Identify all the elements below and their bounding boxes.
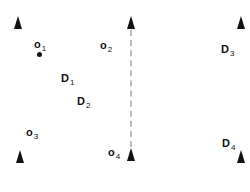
label-base: o xyxy=(34,38,41,50)
triangle-marker-icon xyxy=(237,16,245,29)
label-subscript: 3 xyxy=(230,49,234,58)
triangle-marker-icon xyxy=(14,16,22,29)
label-subscript: 4 xyxy=(231,143,235,152)
label-base: o xyxy=(108,146,115,158)
label-o1: o1 xyxy=(34,39,46,53)
label-subscript: 2 xyxy=(108,45,112,54)
label-base: o xyxy=(100,39,107,51)
label-o3: o3 xyxy=(26,127,38,141)
label-base: D xyxy=(77,95,85,107)
label-d4: D4 xyxy=(222,138,235,152)
label-o2: o2 xyxy=(100,40,112,54)
triangle-marker-icon xyxy=(127,148,135,161)
label-subscript: 3 xyxy=(34,132,38,141)
triangle-marker-icon xyxy=(237,150,245,163)
label-d2: D2 xyxy=(77,96,90,110)
label-o4: o4 xyxy=(108,147,120,161)
label-subscript: 1 xyxy=(42,44,46,53)
triangle-marker-icon xyxy=(127,16,135,29)
dashed-divider-line xyxy=(130,30,132,147)
triangle-marker-icon xyxy=(16,150,24,163)
label-base: D xyxy=(61,72,69,84)
label-subscript: 2 xyxy=(86,101,90,110)
label-subscript: 4 xyxy=(116,152,120,161)
diagram-canvas: o1 o2 D1 D2 o3 o4 D3 D4 xyxy=(0,0,250,192)
label-d1: D1 xyxy=(61,73,74,87)
label-base: o xyxy=(26,126,33,138)
label-base: D xyxy=(221,43,229,55)
label-d3: D3 xyxy=(221,44,234,58)
label-base: D xyxy=(222,137,230,149)
label-subscript: 1 xyxy=(70,78,74,87)
